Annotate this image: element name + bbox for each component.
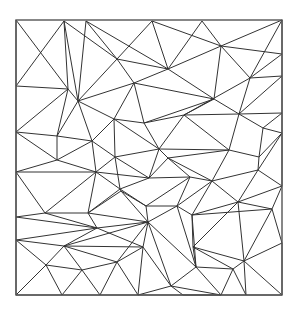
triangulation-diagram <box>0 0 299 313</box>
